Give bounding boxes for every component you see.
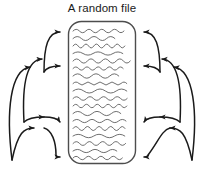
left-arrow-4 bbox=[9, 67, 30, 160]
right-arrow-5 bbox=[160, 117, 180, 122]
left-arrow-5 bbox=[24, 117, 44, 122]
right-arrow-2 bbox=[144, 66, 160, 72]
right-arrow-6 bbox=[170, 128, 192, 160]
figure-title: A random file bbox=[0, 2, 204, 14]
diagram-canvas bbox=[0, 0, 204, 183]
left-arrow-7 bbox=[44, 117, 60, 122]
right-arrow-4 bbox=[174, 67, 195, 160]
right-arrow-8 bbox=[144, 128, 170, 157]
left-arrow-2 bbox=[44, 66, 60, 72]
left-arrow-8 bbox=[44, 128, 60, 157]
left-arrow-6 bbox=[12, 128, 34, 160]
random-file-access-diagram: A random file bbox=[0, 0, 204, 183]
left-seek-arrows bbox=[9, 32, 60, 160]
right-seek-arrows bbox=[144, 32, 195, 160]
right-arrow-7 bbox=[144, 117, 160, 122]
